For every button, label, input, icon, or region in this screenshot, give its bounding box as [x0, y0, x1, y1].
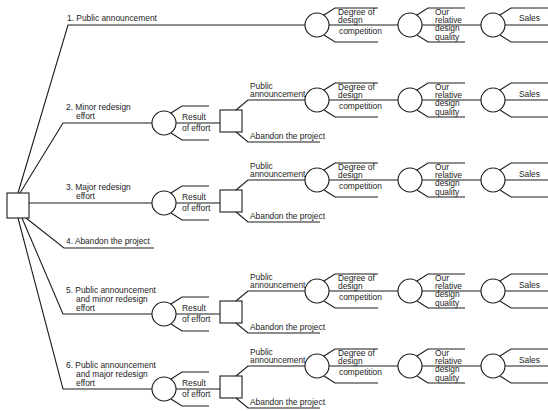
branch-2-subtree: Result of effort Public announcement Aba…	[152, 81, 548, 142]
result-chance-node	[152, 111, 176, 135]
svg-text:design: design	[338, 356, 363, 366]
svg-text:Sales: Sales	[519, 13, 540, 23]
svg-text:quality: quality	[435, 187, 460, 197]
svg-text:Result: Result	[182, 192, 206, 202]
svg-text:Abandon the project: Abandon the project	[250, 211, 326, 221]
decision-tree-diagram: 1. Public announcement 2. Minor redesign…	[0, 0, 548, 411]
svg-text:announcement: announcement	[250, 89, 306, 99]
svg-text:design: design	[338, 170, 363, 180]
branch-1-chain: Degree of design competition Our relativ…	[305, 7, 548, 42]
competition-chance-node	[305, 13, 329, 37]
svg-text:quality: quality	[435, 373, 460, 383]
alternative-1-label: 1. Public announcement	[67, 13, 158, 23]
svg-text:announcement: announcement	[250, 355, 306, 365]
svg-text:Abandon the project: Abandon the project	[250, 397, 326, 407]
svg-text:design: design	[338, 15, 363, 25]
svg-text:4. Abandon the project: 4. Abandon the project	[66, 236, 151, 246]
sales-chance-node	[481, 13, 505, 37]
svg-text:1. Public announcement: 1. Public announcement	[67, 13, 158, 23]
svg-text:of effort: of effort	[182, 203, 211, 213]
alternative-5-label: 5. Public announcement and minor redesig…	[66, 285, 157, 313]
svg-text:Sales: Sales	[519, 355, 540, 365]
svg-text:of effort: of effort	[182, 389, 211, 399]
svg-text:competition: competition	[339, 181, 382, 191]
svg-text:Result: Result	[182, 303, 206, 313]
svg-text:quality: quality	[435, 298, 460, 308]
svg-text:competition: competition	[339, 367, 382, 377]
svg-text:effort: effort	[76, 111, 96, 121]
svg-text:effort: effort	[76, 191, 96, 201]
branch-6-subtree: Result of effort Public announcement Aba…	[152, 347, 548, 408]
svg-text:Abandon the project: Abandon the project	[250, 322, 326, 332]
svg-text:quality: quality	[435, 107, 460, 117]
branch-3-subtree: Result of effort Public announcement Aba…	[152, 161, 548, 222]
root-decision-node	[7, 193, 29, 218]
alternative-4-label: 4. Abandon the project	[66, 236, 151, 246]
svg-text:Sales: Sales	[519, 280, 540, 290]
alternative-3-label: 3. Major redesign effort	[66, 182, 131, 201]
svg-text:Abandon the project: Abandon the project	[250, 131, 326, 141]
svg-text:competition: competition	[339, 26, 382, 36]
alternative-6-label: 6. Public announcement and major redesig…	[66, 360, 157, 388]
quality-chance-node	[398, 13, 422, 37]
branch-5-subtree: Result of effort Public announcement Aba…	[152, 272, 548, 333]
svg-text:design: design	[338, 90, 363, 100]
svg-text:Result: Result	[182, 378, 206, 388]
svg-text:Sales: Sales	[519, 169, 540, 179]
alternative-2-label: 2. Minor redesign effort	[66, 102, 131, 121]
svg-text:announcement: announcement	[250, 280, 306, 290]
svg-text:of effort: of effort	[182, 123, 211, 133]
svg-text:Sales: Sales	[519, 89, 540, 99]
svg-text:announcement: announcement	[250, 169, 306, 179]
svg-text:effort: effort	[76, 303, 96, 313]
svg-text:competition: competition	[339, 292, 382, 302]
svg-text:effort: effort	[76, 378, 96, 388]
svg-text:competition: competition	[339, 101, 382, 111]
second-decision-node	[220, 110, 242, 132]
svg-text:Result: Result	[182, 112, 206, 122]
svg-text:design: design	[338, 281, 363, 291]
svg-text:of effort: of effort	[182, 314, 211, 324]
svg-text:quality: quality	[435, 32, 460, 42]
